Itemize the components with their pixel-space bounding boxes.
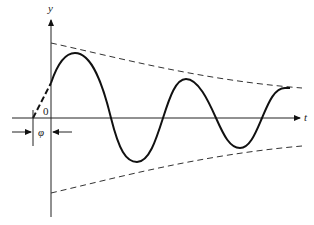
lower-envelope <box>51 146 302 193</box>
upper-envelope <box>51 43 302 88</box>
diagram-canvas: y t 0 φ <box>0 0 314 225</box>
phase-label: φ <box>38 126 44 138</box>
t-axis-label: t <box>304 111 308 123</box>
y-axis-label: y <box>47 2 53 14</box>
origin-label: 0 <box>43 105 49 117</box>
